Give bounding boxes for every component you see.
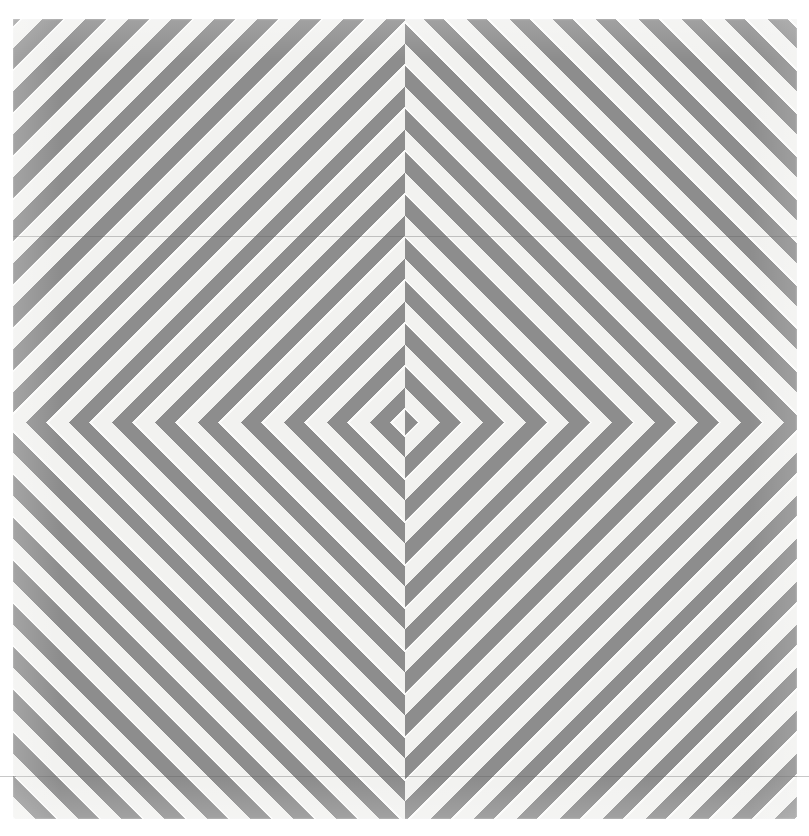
stripe-field-bottom-left	[13, 422, 405, 819]
stripe-field-top-left	[13, 19, 405, 422]
stripe-field-top-right	[405, 19, 797, 422]
stripe-field-bottom-right	[405, 422, 797, 819]
quadrant-top-left	[13, 19, 405, 422]
artwork-canvas	[0, 0, 809, 836]
artwork-panel	[13, 19, 797, 819]
quadrant-top-right	[405, 19, 797, 422]
quadrant-bottom-right	[405, 422, 797, 819]
quadrant-bottom-left	[13, 422, 405, 819]
